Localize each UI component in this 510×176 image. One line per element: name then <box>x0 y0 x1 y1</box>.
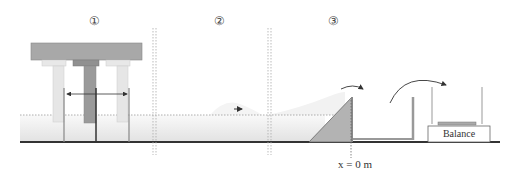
balance-label: Balance <box>428 128 490 139</box>
stage-label-1: ① <box>86 14 102 29</box>
stage-label-2: ② <box>211 14 227 29</box>
collection-basin <box>353 97 414 140</box>
experiment-diagram <box>0 0 510 176</box>
overtopping-arrow <box>341 86 363 89</box>
transfer-arrow <box>390 80 446 103</box>
origin-label: x = 0 m <box>338 158 372 170</box>
water-body <box>20 92 345 142</box>
stage-label-3: ③ <box>325 14 341 29</box>
measuring-container <box>432 87 482 125</box>
